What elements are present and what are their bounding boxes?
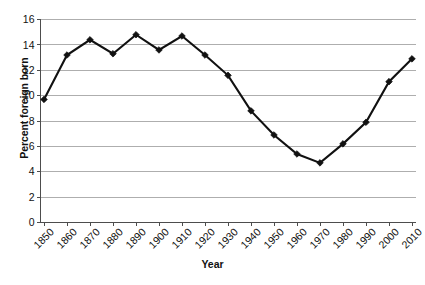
x-tick-label: 1920 xyxy=(192,225,217,250)
x-tick-label: 1870 xyxy=(77,225,102,250)
y-tick-label: 6 xyxy=(29,140,35,152)
x-tick-label: 2010 xyxy=(399,225,424,250)
x-tick-labels-group: 1850186018701880189019001910192019301940… xyxy=(31,225,424,250)
x-tick-label: 1890 xyxy=(123,225,148,250)
y-tick-label: 4 xyxy=(29,165,35,177)
y-tick-label: 16 xyxy=(23,13,35,25)
x-tick-label: 2000 xyxy=(376,225,401,250)
gridlines-group xyxy=(41,20,416,198)
x-tick-label: 1850 xyxy=(31,225,56,250)
line-chart-plot: 0246810121416 18501860187018801890190019… xyxy=(0,0,425,285)
y-tick-label: 0 xyxy=(29,216,35,228)
x-tick-label: 1910 xyxy=(169,225,194,250)
y-tick-label: 2 xyxy=(29,191,35,203)
data-series-line xyxy=(44,35,412,163)
x-tick-label: 1880 xyxy=(100,225,125,250)
y-tick-label: 14 xyxy=(23,39,35,51)
x-tick-label: 1940 xyxy=(238,225,263,250)
y-tick-label: 10 xyxy=(23,89,35,101)
x-tick-label: 1860 xyxy=(54,225,79,250)
y-tick-label: 12 xyxy=(23,64,35,76)
x-tick-label: 1960 xyxy=(284,225,309,250)
y-tick-label: 8 xyxy=(29,115,35,127)
x-tick-label: 1990 xyxy=(353,225,378,250)
y-tick-labels-group: 0246810121416 xyxy=(23,13,35,228)
x-tick-label: 1980 xyxy=(330,225,355,250)
chart-figure: Percent foreign born 0246810121416 18501… xyxy=(0,0,425,285)
x-tick-label: 1970 xyxy=(307,225,332,250)
x-tick-label: 1950 xyxy=(261,225,286,250)
data-markers-group xyxy=(41,31,416,166)
x-tick-label: 1930 xyxy=(215,225,240,250)
x-tick-label: 1900 xyxy=(146,225,171,250)
x-axis-title: Year xyxy=(0,258,425,270)
